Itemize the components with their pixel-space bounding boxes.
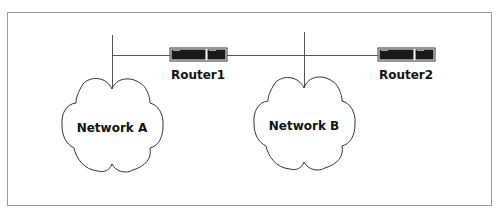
router2-label: Router2 [379,68,433,82]
network-a-label: Network A [77,121,148,135]
router1-icon[interactable] [170,48,227,61]
router2-icon[interactable] [378,48,435,61]
network-b-label: Network B [269,119,339,133]
router1-label: Router1 [171,68,225,82]
network-diagram: Router1 Router2 Network A Network B [0,0,497,217]
